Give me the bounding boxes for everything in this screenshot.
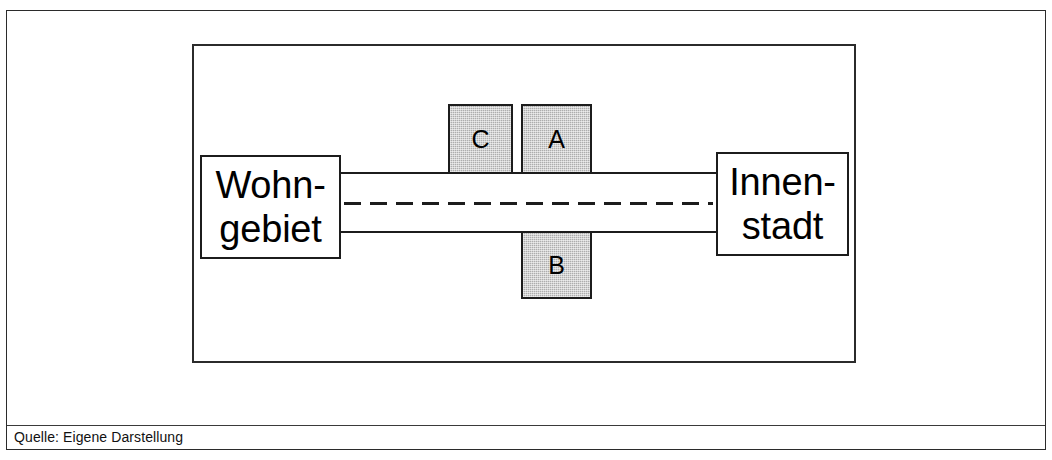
block-a-label: A xyxy=(548,125,565,153)
node-innenstadt-label-line1: Innen- xyxy=(729,160,836,204)
figure-canvas: C A B Wohn- gebiet Innen- stadt Quelle: … xyxy=(0,0,1052,460)
block-c-label: C xyxy=(471,125,489,153)
node-wohngebiet-label-line1: Wohn- xyxy=(215,163,325,207)
node-wohngebiet: Wohn- gebiet xyxy=(200,155,341,259)
block-b-label: B xyxy=(548,251,565,279)
figure-caption: Quelle: Eigene Darstellung xyxy=(14,428,183,447)
block-a: A xyxy=(521,104,592,174)
node-innenstadt: Innen- stadt xyxy=(716,152,849,256)
road-center-dashed-line xyxy=(344,202,713,205)
node-wohngebiet-label-line2: gebiet xyxy=(219,207,321,251)
block-c: C xyxy=(448,104,513,174)
caption-divider xyxy=(7,425,1045,426)
node-innenstadt-label-line2: stadt xyxy=(742,204,823,248)
block-b: B xyxy=(521,231,592,299)
